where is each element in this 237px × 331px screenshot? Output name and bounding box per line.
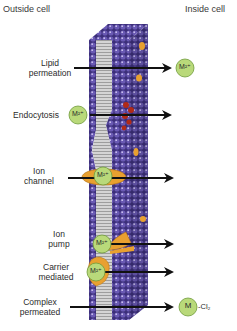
ion-label-lipid: M²⁺ (176, 63, 194, 71)
label-endocytosis: Endocytosis (4, 110, 68, 120)
ion-label-endocytosis: M²⁺ (69, 110, 87, 118)
label-ion-channel: Ion channel (14, 166, 64, 186)
ion-label-complex: M (179, 301, 197, 310)
label-complex-permeated: Complex permeated (10, 297, 70, 317)
label-carrier-mediated: Carrier mediated (26, 262, 86, 282)
ion-label-carrier: M²⁺ (87, 267, 105, 275)
ion-suffix-complex: -Cl₂ (198, 302, 211, 311)
ion-label-channel: M²⁺ (94, 171, 112, 179)
label-ion-pump: Ion pump (34, 229, 84, 249)
ion-label-pump: M²⁺ (93, 239, 111, 247)
label-lipid-permeation: Lipid permeation (20, 58, 80, 78)
